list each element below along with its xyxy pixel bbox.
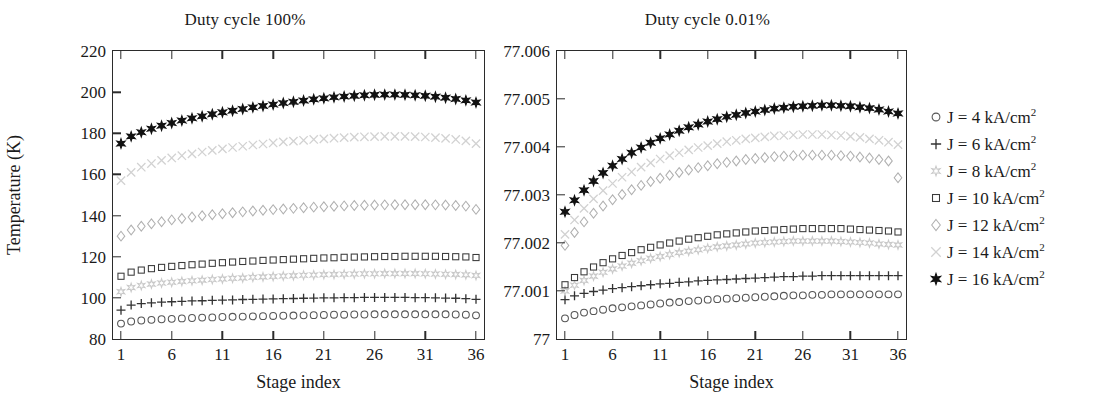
legend-label-exponent: 2 (1031, 160, 1037, 172)
x-tick-mark-top (802, 51, 803, 59)
legend-label: J = 16 kA/cm2 (947, 269, 1045, 288)
x-tick-mark (755, 331, 756, 339)
data-layer-left (113, 51, 484, 339)
legend-label-exponent: 2 (1039, 268, 1045, 280)
y-tick-mark (113, 215, 121, 216)
legend-item[interactable]: J = 8 kA/cm2 (925, 157, 1105, 184)
x-tick-mark-top (374, 51, 375, 59)
y-tick-label: 77 (533, 331, 550, 348)
panel-duty-cycle-100: Duty cycle 100% 801001201401601802002201… (0, 0, 500, 414)
square-marker-icon (925, 187, 947, 209)
y-tick-label: 77.001 (503, 283, 550, 300)
x-tick-label: 26 (366, 346, 383, 363)
x-tick-mark-top (755, 51, 756, 59)
x-tick-label: 6 (167, 346, 176, 363)
y-tick-label: 77.002 (503, 235, 550, 252)
legend-label-text: J = 14 kA/cm (947, 243, 1039, 262)
x-tick-label: 26 (794, 346, 811, 363)
x-tick-label: 16 (699, 346, 716, 363)
x-tick-mark (475, 331, 476, 339)
x-tick-label: 16 (265, 346, 282, 363)
legend-label: J = 14 kA/cm2 (947, 242, 1045, 261)
legend-label-text: J = 6 kA/cm (947, 135, 1031, 154)
legend-item[interactable]: J = 12 kA/cm2 (925, 211, 1105, 238)
x-tick-mark (120, 331, 121, 339)
x-tick-mark-top (659, 51, 660, 59)
legend-label-text: J = 12 kA/cm (947, 216, 1039, 235)
x-tick-label: 31 (842, 346, 859, 363)
x-tick-label: 1 (117, 346, 126, 363)
series-star6f (561, 100, 902, 216)
x-tick-mark (612, 331, 613, 339)
series-plus (561, 271, 903, 304)
legend-item[interactable]: J = 16 kA/cm2 (925, 265, 1105, 292)
legend: J = 4 kA/cm2J = 6 kA/cm2J = 8 kA/cm2J = … (925, 103, 1105, 292)
series-star6f (117, 90, 480, 149)
x-tick-mark (802, 331, 803, 339)
plot-area-left: 8010012014016018020022016111621263136 (112, 50, 485, 340)
y-tick-label: 120 (81, 248, 107, 265)
legend-label: J = 4 kA/cm2 (947, 107, 1036, 126)
legend-label-exponent: 2 (1039, 241, 1045, 253)
y-tick-mark (557, 242, 565, 243)
y-tick-label: 77.005 (503, 91, 550, 108)
x-tick-label: 36 (468, 346, 485, 363)
x-tick-mark (222, 331, 223, 339)
y-tick-mark (557, 98, 565, 99)
x-tick-mark-top (272, 51, 273, 59)
x-tick-mark (171, 331, 172, 339)
legend-item[interactable]: J = 6 kA/cm2 (925, 130, 1105, 157)
star6-marker-icon (925, 160, 947, 182)
y-tick-mark (557, 194, 565, 195)
series-cross (117, 132, 480, 185)
legend-label: J = 6 kA/cm2 (947, 134, 1036, 153)
data-layer-right (557, 51, 906, 339)
y-tick-label: 80 (89, 331, 106, 348)
panel-title-right: Duty cycle 0.01% (500, 10, 915, 30)
x-tick-mark (564, 331, 565, 339)
x-tick-mark-top (323, 51, 324, 59)
x-tick-mark (897, 331, 898, 339)
legend-item[interactable]: J = 4 kA/cm2 (925, 103, 1105, 130)
y-tick-mark (113, 256, 121, 257)
x-tick-mark-top (850, 51, 851, 59)
x-tick-mark-top (425, 51, 426, 59)
y-tick-mark (113, 174, 121, 175)
x-tick-mark (659, 331, 660, 339)
panel-title-left: Duty cycle 100% (0, 10, 490, 30)
x-tick-mark-top (120, 51, 121, 59)
x-axis-title-right: Stage index (556, 372, 907, 393)
x-tick-mark-top (564, 51, 565, 59)
x-tick-mark-top (171, 51, 172, 59)
legend-label-exponent: 2 (1031, 133, 1037, 145)
x-axis-title-left: Stage index (112, 372, 485, 393)
x-tick-mark (374, 331, 375, 339)
figure-root: Temperature (K) Duty cycle 100% 80100120… (0, 0, 1109, 414)
legend-item[interactable]: J = 10 kA/cm2 (925, 184, 1105, 211)
y-tick-label: 140 (81, 207, 107, 224)
x-tick-label: 1 (561, 346, 570, 363)
x-tick-mark-top (612, 51, 613, 59)
circle-marker-icon (925, 106, 947, 128)
y-tick-label: 77.003 (503, 187, 550, 204)
x-tick-label: 11 (214, 346, 230, 363)
x-tick-mark (850, 331, 851, 339)
y-tick-mark (557, 146, 565, 147)
legend-label-text: J = 16 kA/cm (947, 270, 1039, 289)
legend-label-exponent: 2 (1039, 187, 1045, 199)
x-tick-label: 11 (652, 346, 668, 363)
y-tick-mark (113, 297, 121, 298)
plot-area-right: 7777.00177.00277.00377.00477.00577.00616… (556, 50, 907, 340)
y-tick-label: 77.006 (503, 43, 550, 60)
y-tick-label: 100 (81, 289, 107, 306)
series-cross (561, 130, 902, 238)
x-tick-mark (272, 331, 273, 339)
x-tick-label: 6 (608, 346, 617, 363)
legend-item[interactable]: J = 14 kA/cm2 (925, 238, 1105, 265)
x-tick-mark (707, 331, 708, 339)
series-diamond (117, 200, 480, 241)
y-tick-label: 200 (81, 84, 107, 101)
x-tick-mark-top (707, 51, 708, 59)
legend-label: J = 12 kA/cm2 (947, 215, 1045, 234)
y-tick-label: 160 (81, 166, 107, 183)
